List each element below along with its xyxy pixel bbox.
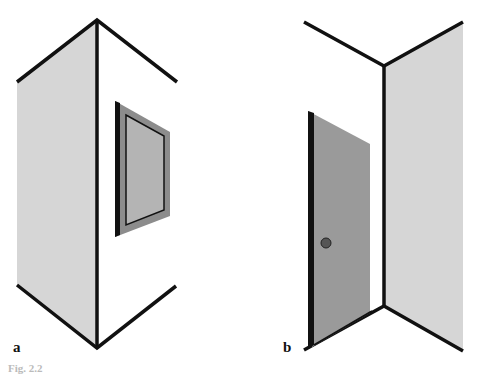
figure-caption-partial: Fig. 2.2 [8,362,43,374]
door [308,111,372,349]
left-wall-shaded [17,20,97,348]
panel-b-inside-corner [304,22,463,351]
door-knob-icon [321,238,331,248]
picture-frame [115,101,170,237]
panel-a-outside-corner [17,20,177,348]
panel-label-a: a [13,339,21,356]
panel-label-b: b [283,339,291,356]
right-wall-shaded [384,22,463,351]
